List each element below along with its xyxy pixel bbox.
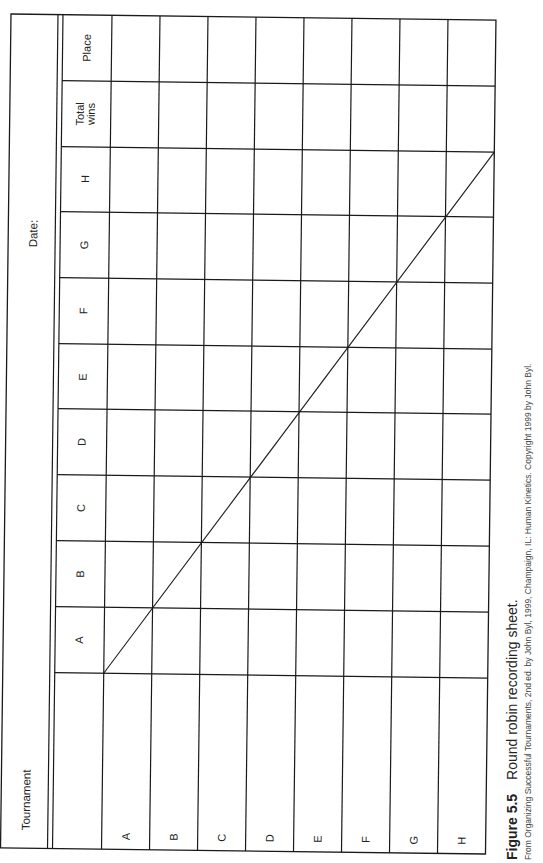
col-header-total-wins-line2: wins bbox=[85, 102, 97, 126]
col-header-a: A bbox=[73, 636, 85, 644]
self-match-diagonal bbox=[104, 147, 495, 678]
figure-number: Figure 5.5 bbox=[504, 794, 520, 860]
row-label-d: D bbox=[264, 834, 276, 842]
col-header-h: H bbox=[79, 175, 91, 183]
col-header-g: G bbox=[78, 241, 90, 250]
row-label-g: G bbox=[408, 836, 420, 845]
col-header-d: D bbox=[76, 438, 88, 446]
row-label-h: H bbox=[456, 837, 468, 845]
col-header-f: F bbox=[77, 307, 89, 314]
row-label-e: E bbox=[312, 835, 324, 842]
column-lines bbox=[102, 15, 448, 853]
sheet-border bbox=[1, 14, 496, 854]
row-label-c: C bbox=[216, 834, 228, 842]
col-header-place: Place bbox=[80, 34, 92, 62]
row-label-f: F bbox=[360, 836, 372, 843]
col-header-b: B bbox=[74, 570, 86, 577]
title-strip-divider-inner bbox=[53, 15, 63, 849]
row-label-a: A bbox=[120, 832, 132, 840]
figure-caption: Figure 5.5 Round robin recording sheet. bbox=[504, 599, 520, 860]
date-label: Date: bbox=[27, 220, 39, 248]
col-header-e: E bbox=[76, 373, 88, 380]
title-strip-divider bbox=[48, 15, 58, 849]
figure-source: From Organizing Successful Tournaments, … bbox=[523, 364, 533, 860]
row-lines bbox=[55, 81, 495, 678]
tournament-label: Tournament bbox=[20, 769, 33, 831]
figure-title: Round robin recording sheet. bbox=[504, 599, 520, 780]
col-header-c: C bbox=[75, 504, 87, 512]
round-robin-sheet: Tournament Date: A B C D E F G H Total w… bbox=[0, 0, 543, 863]
row-label-b: B bbox=[168, 833, 180, 840]
